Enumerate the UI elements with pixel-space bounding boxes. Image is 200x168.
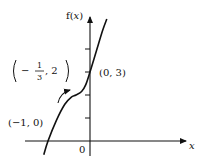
chart: f(x) x 0 (0, 3) (−1, 0) − 1 3 , 2 [0, 0, 200, 168]
point-label-0-3: (0, 3) [99, 67, 126, 78]
inflection-denominator: 3 [37, 73, 42, 82]
point-label-inflection: − 1 3 , 2 [14, 60, 69, 82]
inflection-y: , 2 [45, 65, 58, 76]
inflection-minus: − [21, 65, 29, 76]
point-label-neg1-0: (−1, 0) [8, 117, 43, 128]
function-curve [44, 19, 107, 155]
y-axis-label: f(x) [66, 10, 83, 21]
origin-label: 0 [79, 144, 85, 155]
inflection-numerator: 1 [37, 61, 42, 70]
x-axis-label: x [189, 140, 195, 151]
